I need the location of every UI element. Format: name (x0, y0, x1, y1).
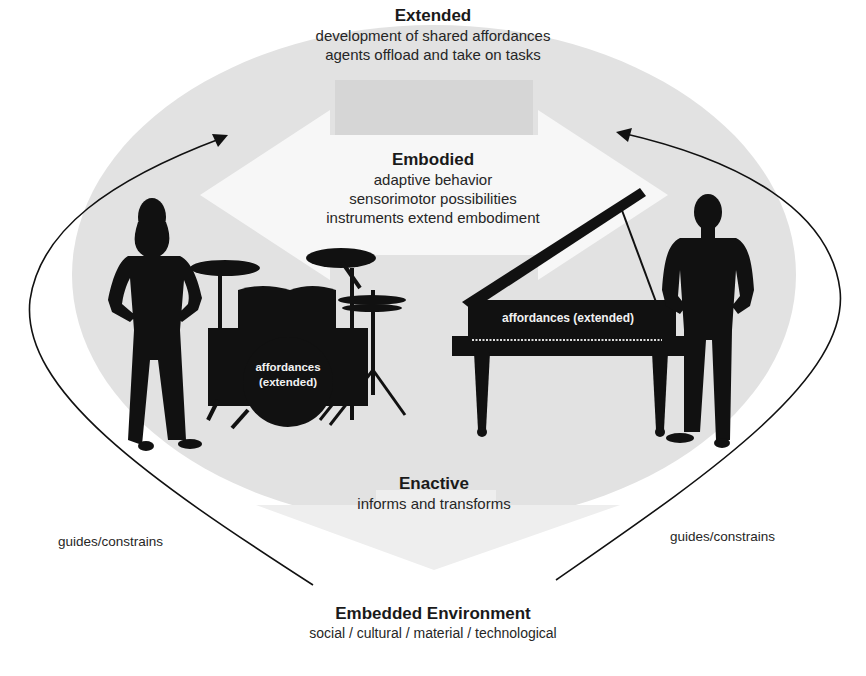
embodied-title: Embodied (233, 150, 633, 170)
extended-line-2: agents offload and take on tasks (233, 45, 633, 64)
drum-affordances-line-2: (extended) (238, 375, 338, 390)
guides-constrains-left: guides/constrains (58, 534, 163, 549)
embodied-block: Embodied adaptive behavior sensorimotor … (233, 150, 633, 227)
environment-block: Embedded Environment social / cultural /… (233, 604, 633, 643)
diagram-canvas (0, 0, 866, 676)
guides-constrains-right: guides/constrains (670, 529, 775, 544)
environment-title: Embedded Environment (233, 604, 633, 624)
drum-affordances-line-1: affordances (238, 360, 338, 375)
piano-affordances-text: affordances (extended) (468, 311, 668, 326)
piano-affordances-label: affordances (extended) (468, 311, 668, 326)
environment-subtitle: social / cultural / material / technolog… (233, 624, 633, 643)
extended-title: Extended (233, 6, 633, 26)
drum-affordances-label: affordances (extended) (238, 360, 338, 390)
enactive-line-1: informs and transforms (284, 494, 584, 513)
extended-block: Extended development of shared affordanc… (233, 6, 633, 64)
enactive-block: Enactive informs and transforms (284, 474, 584, 513)
embodied-line-1: adaptive behavior (233, 170, 633, 189)
enactive-title: Enactive (284, 474, 584, 494)
extended-line-1: development of shared affordances (233, 26, 633, 45)
embodied-line-3: instruments extend embodiment (233, 208, 633, 227)
up-arrow-shaft (335, 80, 533, 140)
embodied-line-2: sensorimotor possibilities (233, 189, 633, 208)
